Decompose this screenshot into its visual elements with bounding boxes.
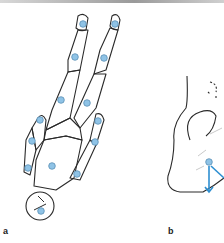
figure-diagram [0,0,224,243]
marker-point [38,208,45,215]
marker-point [58,97,65,104]
marker-point [49,163,56,170]
panel-b-axis-arrows [205,166,224,192]
marker-point [37,117,44,124]
marker-point [95,118,102,125]
panel-b-marker-point [206,159,213,166]
panel-b-foot-outline [168,76,224,192]
marker-point [92,139,99,146]
marker-point [101,55,108,62]
marker-point [29,138,36,145]
panel-label-a: a [3,226,8,236]
marker-point [25,165,32,172]
marker-point [80,21,87,28]
marker-point [84,100,91,107]
marker-point [112,21,119,28]
panel-label-b: b [168,226,174,236]
marker-point [72,54,79,61]
marker-point [74,171,81,178]
